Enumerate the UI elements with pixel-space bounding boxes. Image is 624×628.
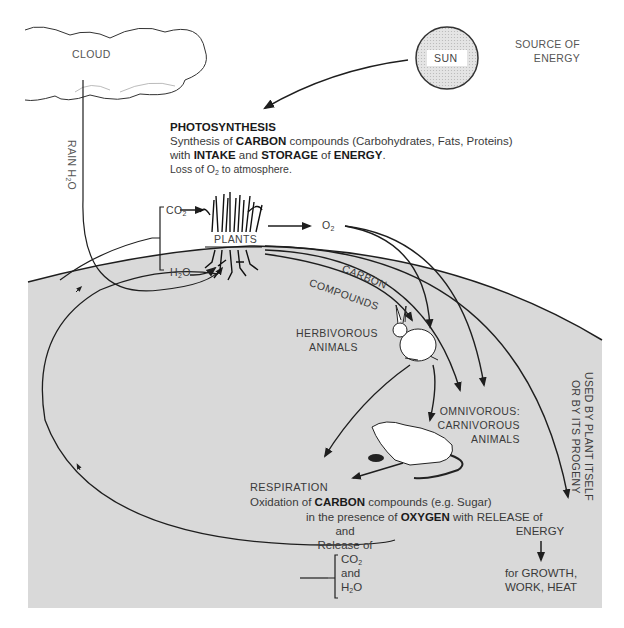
respiration-and2: and bbox=[341, 566, 360, 580]
photosynthesis-line2: with INTAKE and STORAGE of ENERGY. bbox=[170, 148, 513, 162]
rain-label: RAIN H2O bbox=[65, 140, 78, 190]
respiration-release-of: Release of bbox=[310, 538, 380, 552]
omnivores-line2: CARNIVOROUS bbox=[430, 419, 520, 431]
o2-output-label: O2 bbox=[322, 219, 335, 232]
photosynthesis-heading: PHOTOSYNTHESIS bbox=[170, 120, 513, 134]
plants-label: PLANTS bbox=[214, 233, 257, 245]
energy-uses-line2: WORK, HEAT bbox=[496, 580, 586, 594]
omnivores-line1: OMNIVOROUS: bbox=[430, 405, 520, 417]
respiration-heading: RESPIRATION bbox=[250, 481, 328, 493]
herbivores-line2: ANIMALS bbox=[290, 341, 358, 353]
photosynthesis-line3: Loss of O2 to atmosphere. bbox=[170, 162, 513, 180]
sun-note-line2: ENERGY bbox=[500, 52, 580, 64]
respiration-energy: ENERGY bbox=[500, 524, 580, 538]
h2o-intake-label: H2O bbox=[170, 266, 191, 279]
sun-energy-arrow bbox=[265, 60, 408, 108]
sun-note-line1: SOURCE OF bbox=[500, 38, 580, 50]
co2-intake-label: CO2 bbox=[166, 204, 187, 217]
omnivores-line3: ANIMALS bbox=[430, 433, 520, 445]
photosynthesis-block: PHOTOSYNTHESIS Synthesis of CARBON compo… bbox=[170, 120, 513, 180]
respiration-and1: and bbox=[320, 524, 370, 538]
sun-label: SUN bbox=[434, 52, 457, 64]
herbivores-line1: HERBIVOROUS bbox=[290, 327, 378, 339]
cloud-icon bbox=[25, 27, 206, 101]
respiration-line1: Oxidation of CARBON compounds (e.g. Suga… bbox=[250, 495, 492, 509]
cloud-label: CLOUD bbox=[72, 48, 111, 60]
energy-uses-line1: for GROWTH, bbox=[496, 566, 586, 580]
respiration-line2: in the presence of OXYGEN with RELEASE o… bbox=[306, 510, 543, 524]
plant-use-line2: OR BY ITS PROGENY bbox=[570, 380, 582, 494]
plant-use-line1: USED BY PLANT ITSELF bbox=[583, 372, 595, 501]
respiration-h2o: H2O bbox=[341, 580, 362, 598]
photosynthesis-line1: Synthesis of CARBON compounds (Carbohydr… bbox=[170, 134, 513, 148]
